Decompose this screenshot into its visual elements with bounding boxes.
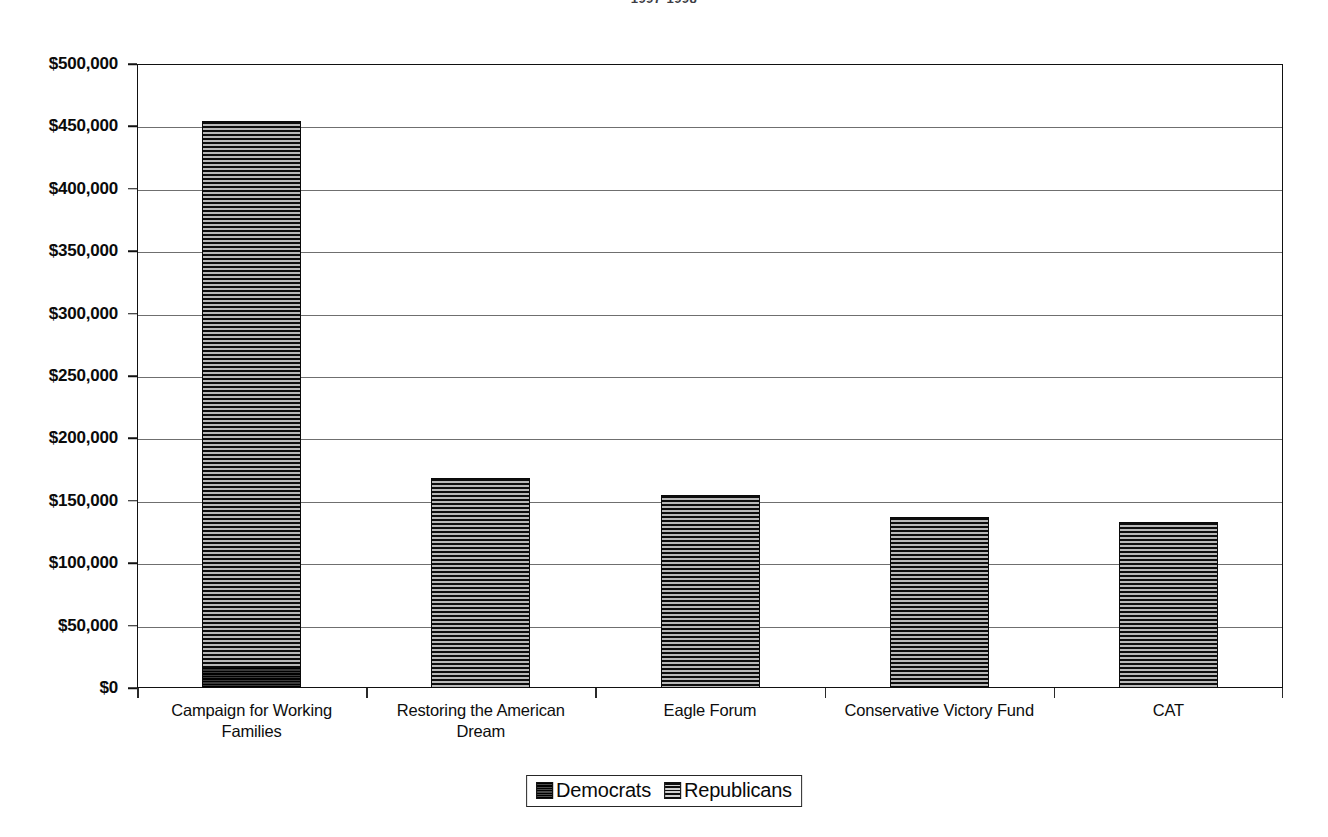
y-axis-tick-label: $100,000 — [49, 553, 118, 573]
x-axis-tick-mark — [366, 688, 368, 698]
x-axis-category-label: Conservative Victory Fund — [825, 700, 1054, 721]
legend-label: Republicans — [684, 779, 792, 802]
bar-segment-republicans[interactable] — [202, 121, 301, 666]
y-axis: $500,000$450,000$400,000$350,000$300,000… — [0, 0, 137, 760]
x-axis-category-label: Restoring the AmericanDream — [366, 700, 595, 742]
y-axis-tick-label: $450,000 — [49, 116, 118, 136]
bar-segment-republicans[interactable] — [661, 495, 760, 688]
x-axis-tick-mark — [825, 688, 827, 698]
y-axis-tick-label: $200,000 — [49, 428, 118, 448]
x-axis-tick-mark — [1282, 688, 1284, 698]
y-axis-tick-mark — [128, 126, 137, 128]
bar[interactable] — [431, 478, 530, 688]
legend-label: Democrats — [556, 779, 651, 802]
y-axis-tick-label: $150,000 — [49, 491, 118, 511]
y-axis-tick-label: $350,000 — [49, 241, 118, 261]
bar-segment-republicans[interactable] — [431, 478, 530, 688]
bar[interactable] — [202, 121, 301, 688]
y-axis-tick-label: $300,000 — [49, 304, 118, 324]
page-title: 1997-1998 — [0, 0, 1328, 6]
y-axis-tick-mark — [128, 250, 137, 252]
y-axis-tick-mark — [128, 687, 137, 689]
x-axis-category-label-line: Conservative Victory Fund — [825, 700, 1054, 721]
bar[interactable] — [661, 495, 760, 688]
x-axis-category-label-line: Campaign for Working — [137, 700, 366, 721]
x-axis-category-label-line: Dream — [366, 721, 595, 742]
x-axis-tick-mark — [1054, 688, 1056, 698]
y-axis-tick-label: $50,000 — [58, 616, 118, 636]
y-axis-tick-mark — [128, 63, 137, 65]
bar-segment-republicans[interactable] — [890, 517, 989, 688]
y-axis-tick-mark — [128, 375, 137, 377]
x-axis-category-label: CAT — [1054, 700, 1283, 721]
y-axis-tick-mark — [128, 500, 137, 502]
y-axis-tick-label: $400,000 — [49, 179, 118, 199]
legend-item[interactable]: Democrats — [536, 779, 651, 802]
bar[interactable] — [890, 517, 989, 688]
y-axis-tick-mark — [128, 313, 137, 315]
bar-segment-republicans[interactable] — [1119, 522, 1218, 688]
x-axis-category-label: Campaign for WorkingFamilies — [137, 700, 366, 742]
bar-series-container — [137, 64, 1283, 688]
legend-swatch-democrats-icon — [536, 782, 553, 799]
x-axis-labels: Campaign for WorkingFamiliesRestoring th… — [137, 700, 1283, 760]
y-axis-tick-label: $250,000 — [49, 366, 118, 386]
x-axis-tick-mark — [595, 688, 597, 698]
x-axis-category-label-line: Restoring the American — [366, 700, 595, 721]
y-axis-tick-label: $0 — [99, 678, 118, 698]
y-axis-tick-mark — [128, 188, 137, 190]
x-axis-tick-mark — [137, 688, 139, 698]
x-axis-category-label-line: Eagle Forum — [595, 700, 824, 721]
x-axis-ticks — [137, 688, 1283, 700]
x-axis-category-label-line: Families — [137, 721, 366, 742]
legend-item[interactable]: Republicans — [664, 779, 792, 802]
legend-swatch-republicans-icon — [664, 782, 681, 799]
chart-legend: DemocratsRepublicans — [526, 775, 802, 807]
y-axis-tick-mark — [128, 562, 137, 564]
y-axis-tick-mark — [128, 625, 137, 627]
y-axis-tick-mark — [128, 438, 137, 440]
bar-segment-democrats[interactable] — [202, 667, 301, 688]
y-axis-tick-label: $500,000 — [49, 54, 118, 74]
x-axis-category-label: Eagle Forum — [595, 700, 824, 721]
bar[interactable] — [1119, 522, 1218, 688]
x-axis-category-label-line: CAT — [1054, 700, 1283, 721]
